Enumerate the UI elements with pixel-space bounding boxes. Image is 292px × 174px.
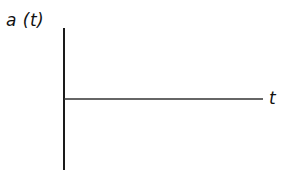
y-axis-label: a (t) <box>6 10 44 30</box>
x-axis-label: t <box>269 88 276 108</box>
